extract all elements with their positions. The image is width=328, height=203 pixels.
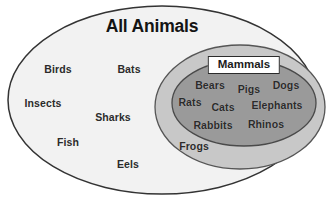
- venn-diagram: All Animals Mammals Birds Bats Insects S…: [0, 0, 328, 203]
- mammals-set-label: Mammals: [218, 58, 270, 71]
- list-item: Pigs: [238, 83, 261, 95]
- mammals-set-label-box: Mammals: [208, 56, 280, 74]
- list-item: Fish: [57, 136, 79, 148]
- list-item: Dogs: [273, 79, 300, 91]
- list-item: Rabbits: [193, 119, 232, 131]
- list-item: Birds: [44, 63, 71, 75]
- page-title: All Animals: [106, 16, 198, 37]
- list-item: Eels: [117, 158, 139, 170]
- list-item: Bats: [117, 63, 140, 75]
- list-item: Elephants: [251, 99, 302, 111]
- list-item: Rhinos: [248, 118, 284, 130]
- list-item: Cats: [211, 101, 234, 113]
- list-item: Frogs: [179, 140, 209, 152]
- list-item: Insects: [25, 97, 62, 109]
- list-item: Bears: [195, 79, 225, 91]
- list-item: Sharks: [95, 111, 131, 123]
- list-item: Rats: [178, 96, 201, 108]
